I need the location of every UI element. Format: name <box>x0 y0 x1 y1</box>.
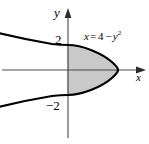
y-axis-label: y <box>54 6 60 19</box>
equation-constant: 4 <box>97 30 105 42</box>
equation-annotation: x=4−y2 <box>84 31 121 42</box>
equation-equals-sign: = <box>89 30 97 42</box>
equation-minus-sign: − <box>105 30 113 42</box>
y-axis-arrowhead <box>65 8 72 18</box>
y-tick-label-2: 2 <box>55 33 62 46</box>
equation-exponent: 2 <box>118 29 122 37</box>
plot-canvas <box>0 0 149 144</box>
parabola-figure: y x 2 −2 x=4−y2 <box>0 0 149 144</box>
y-tick-label-negative-2: −2 <box>46 99 60 112</box>
x-axis-label: x <box>136 72 141 83</box>
